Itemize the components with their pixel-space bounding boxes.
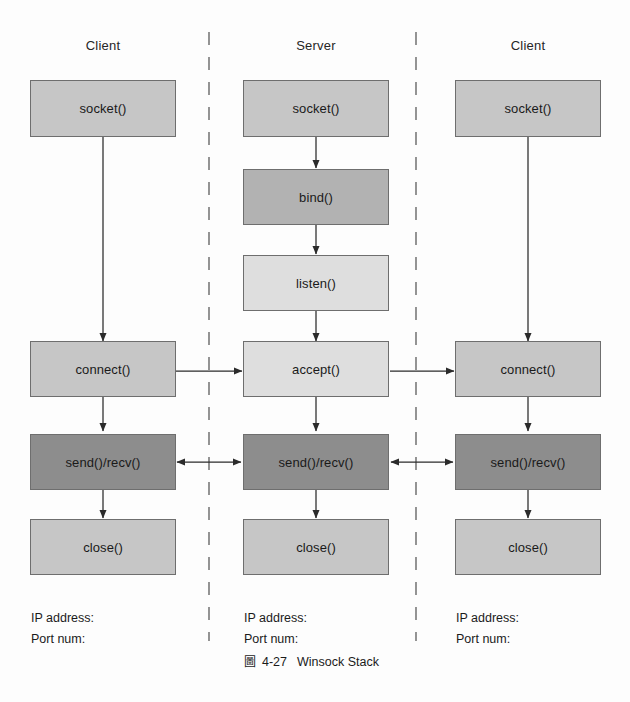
node-client-left-close[interactable]: close() — [30, 519, 176, 575]
node-client-right-close[interactable]: close() — [455, 519, 601, 575]
node-server-listen[interactable]: listen() — [243, 255, 389, 311]
column-title-client-right: Client — [455, 38, 601, 53]
node-server-socket[interactable]: socket() — [243, 80, 389, 137]
node-client-left-connect[interactable]: connect() — [30, 341, 176, 397]
node-server-accept[interactable]: accept() — [243, 341, 389, 397]
node-server-close[interactable]: close() — [243, 519, 389, 575]
endpoint-ip-label: IP address: — [456, 608, 519, 629]
node-server-bind[interactable]: bind() — [243, 169, 389, 225]
node-label: close() — [296, 540, 336, 555]
figure-caption: 圖 4-27 Winsock Stack — [244, 652, 379, 669]
endpoint-info-server: IP address: Port num: — [244, 608, 307, 650]
endpoint-ip-label: IP address: — [31, 608, 94, 629]
node-label: socket() — [504, 101, 551, 116]
endpoint-info-client-left: IP address: Port num: — [31, 608, 94, 650]
node-label: send()/recv() — [66, 455, 141, 470]
node-client-right-socket[interactable]: socket() — [455, 80, 601, 137]
node-label: socket() — [292, 101, 339, 116]
figure-caption-mark: 圖 — [244, 652, 256, 669]
endpoint-info-client-right: IP address: Port num: — [456, 608, 519, 650]
node-label: connect() — [500, 362, 555, 377]
node-client-left-sendrecv[interactable]: send()/recv() — [30, 434, 176, 490]
endpoint-port-label: Port num: — [244, 629, 307, 650]
endpoint-ip-label: IP address: — [244, 608, 307, 629]
node-client-right-sendrecv[interactable]: send()/recv() — [455, 434, 601, 490]
node-label: send()/recv() — [279, 455, 354, 470]
node-label: bind() — [299, 190, 333, 205]
endpoint-port-label: Port num: — [456, 629, 519, 650]
node-label: accept() — [292, 362, 340, 377]
node-label: listen() — [296, 276, 336, 291]
column-title-client-left: Client — [30, 38, 176, 53]
winsock-stack-diagram: Client Server Client — [0, 0, 630, 702]
column-title-server: Server — [243, 38, 389, 53]
node-label: close() — [508, 540, 548, 555]
node-label: close() — [83, 540, 123, 555]
node-label: socket() — [79, 101, 126, 116]
figure-caption-title: Winsock Stack — [297, 655, 379, 669]
endpoint-port-label: Port num: — [31, 629, 94, 650]
figure-caption-number: 4-27 — [262, 655, 287, 669]
node-server-sendrecv[interactable]: send()/recv() — [243, 434, 389, 490]
node-label: send()/recv() — [491, 455, 566, 470]
node-client-right-connect[interactable]: connect() — [455, 341, 601, 397]
node-label: connect() — [75, 362, 130, 377]
node-client-left-socket[interactable]: socket() — [30, 80, 176, 137]
